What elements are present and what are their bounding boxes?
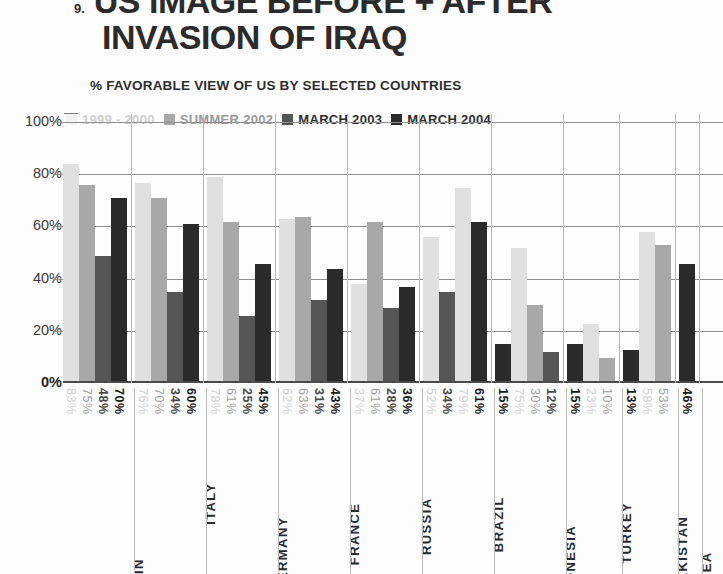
value-label: 75%	[79, 386, 95, 444]
value-label: 13%	[623, 386, 639, 444]
bar[interactable]	[423, 237, 439, 381]
bar[interactable]	[135, 183, 151, 381]
bar[interactable]	[311, 300, 327, 381]
y-axis-tick-80: 80%	[4, 165, 62, 181]
value-label-group-1: 76%70%34%60%	[135, 386, 199, 444]
bar[interactable]	[295, 217, 311, 381]
value-label-text: 61%	[368, 388, 382, 415]
value-label: 63%	[295, 386, 311, 444]
category-separator	[702, 388, 703, 574]
bar[interactable]	[471, 222, 487, 381]
value-label-text: 12%	[544, 388, 558, 415]
value-label: 62%	[279, 386, 295, 444]
bar[interactable]	[583, 324, 599, 381]
bar[interactable]	[207, 177, 223, 381]
value-label-text: 45%	[256, 388, 270, 415]
value-label: 28%	[383, 386, 399, 444]
value-label-text: 53%	[656, 388, 670, 415]
value-label-text: 43%	[328, 388, 342, 415]
bar[interactable]	[223, 222, 239, 381]
bar[interactable]	[639, 232, 655, 381]
bar[interactable]	[623, 350, 639, 381]
bar[interactable]	[383, 308, 399, 381]
value-label: 61%	[367, 386, 383, 444]
value-label-group-7: 15%23%10%	[567, 386, 615, 444]
bar[interactable]	[599, 358, 615, 381]
category-label-turkey: TURKEY	[567, 440, 623, 574]
value-label-text: 63%	[296, 388, 310, 415]
value-label: 34%	[167, 386, 183, 444]
y-axis-tick-0: 0%	[4, 374, 62, 390]
bar[interactable]	[255, 264, 271, 381]
value-label: 78%	[207, 386, 223, 444]
value-label-group-8: 13%58%53%	[623, 386, 671, 444]
value-label-text: 25%	[240, 388, 254, 415]
bar[interactable]	[327, 269, 343, 381]
value-label: 61%	[223, 386, 239, 444]
value-label: 23%	[583, 386, 599, 444]
value-label-text: 61%	[224, 388, 238, 415]
bar[interactable]	[167, 292, 183, 381]
bar-group-france	[279, 120, 343, 381]
bar[interactable]	[239, 316, 255, 381]
value-label: 83%	[63, 386, 79, 444]
value-label-text: 70%	[112, 388, 126, 415]
bar[interactable]	[111, 198, 127, 381]
y-axis: 100%80%60%40%20%0%	[0, 122, 62, 383]
bar-group-turkey	[567, 120, 615, 381]
bar[interactable]	[95, 256, 111, 381]
bar-group-pakistan	[623, 120, 671, 381]
bar[interactable]	[511, 248, 527, 381]
value-label-text: 62%	[280, 388, 294, 415]
value-labels-row: 83%75%48%70%76%70%34%60%78%61%25%45%62%6…	[63, 386, 723, 444]
bar[interactable]	[279, 219, 295, 381]
value-label-text: 10%	[600, 388, 614, 415]
bar[interactable]	[151, 198, 167, 381]
chart-subtitle: % FAVORABLE VIEW OF US BY SELECTED COUNT…	[90, 78, 461, 93]
value-label-text: 61%	[472, 388, 486, 415]
bar-group-indonesia	[495, 120, 559, 381]
bar-group-italy	[135, 120, 199, 381]
bar[interactable]	[63, 164, 79, 381]
bar[interactable]	[79, 185, 95, 381]
value-label: 43%	[327, 386, 343, 444]
value-label: 36%	[399, 386, 415, 444]
value-label-text: 15%	[496, 388, 510, 415]
category-labels-row: GREAT BRITAINITALYGERMANYFRANCERUSSIABRA…	[63, 440, 723, 574]
bar[interactable]	[527, 305, 543, 381]
bar[interactable]	[679, 264, 695, 381]
category-label-russia: RUSSIA	[351, 440, 423, 574]
bar[interactable]	[439, 292, 455, 381]
value-label-text: 75%	[80, 388, 94, 415]
value-label: 61%	[471, 386, 487, 444]
bar[interactable]	[399, 287, 415, 381]
bar[interactable]	[351, 284, 367, 381]
value-label-group-5: 52%34%79%61%	[423, 386, 487, 444]
category-label-south-korea: SOUTH KOREA	[679, 440, 703, 574]
value-label: 58%	[639, 386, 655, 444]
y-axis-tick-40: 40%	[4, 270, 62, 286]
category-label-indonesia: INDONESIA	[495, 440, 567, 574]
bar[interactable]	[543, 352, 559, 381]
value-label: 60%	[183, 386, 199, 444]
value-label-text: 46%	[680, 388, 694, 415]
value-label: 79%	[455, 386, 471, 444]
value-label-text: 31%	[312, 388, 326, 415]
bar[interactable]	[567, 344, 583, 381]
value-label-text: 83%	[64, 388, 78, 415]
bar[interactable]	[655, 245, 671, 381]
bar[interactable]	[183, 224, 199, 381]
value-label: 70%	[111, 386, 127, 444]
value-label: 52%	[423, 386, 439, 444]
value-label-text: 34%	[440, 388, 454, 415]
value-label-group-3: 62%63%31%43%	[279, 386, 343, 444]
bar[interactable]	[455, 188, 471, 381]
value-label-text: 75%	[512, 388, 526, 415]
value-label: 37%	[351, 386, 367, 444]
bar[interactable]	[495, 344, 511, 381]
value-label-group-9: 46%	[679, 386, 695, 444]
value-label: 12%	[543, 386, 559, 444]
value-label-text: 78%	[208, 388, 222, 415]
plot-area	[63, 122, 723, 383]
bar[interactable]	[367, 222, 383, 381]
